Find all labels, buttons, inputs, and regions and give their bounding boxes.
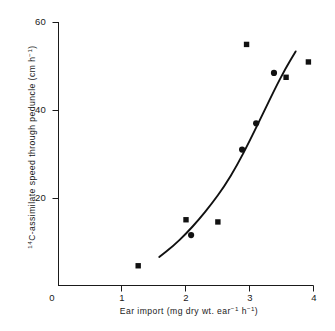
y-axis-title-sup1: −1 [26,49,33,57]
data-point [283,75,288,80]
axes [58,22,314,286]
x-tick-label-4: 4 [304,292,324,303]
chart-figure: 60 40 20 0 1 2 3 4 Ear import (mg dry wt… [0,0,335,331]
data-point [253,120,259,126]
data-point [306,59,311,64]
x-axis-title-end: ) [255,306,258,316]
y-axis-title-sup0: 14 [26,241,33,249]
x-axis-title-main: Ear import (mg dry wt. ear [120,306,231,316]
x-axis-title: Ear import (mg dry wt. ear−1 h−1) [58,306,320,316]
x-axis-title-sup1: −1 [231,305,239,312]
data-point [215,219,220,224]
x-tick-label-0: 0 [42,292,62,303]
data-point [188,232,194,238]
x-tick-label-1: 1 [112,292,132,303]
x-tick-label-2: 2 [176,292,196,303]
data-markers [135,42,311,269]
fit-curve [159,51,295,257]
data-point [271,70,277,76]
data-point [183,217,188,222]
data-point [244,42,249,47]
y-axis-title-end: ) [27,45,37,48]
plot-area [0,0,335,331]
y-axis-title: 14C-assimilate speed through peduncle (c… [27,17,37,277]
x-axis-title-sup2: −1 [247,305,255,312]
data-point [135,263,140,268]
x-tick-label-3: 3 [240,292,260,303]
data-point [239,147,245,153]
x-tick-marks [122,286,314,292]
x-axis-title-mid: h [239,306,247,316]
y-axis-title-main: C-assimilate speed through peduncle (cm … [27,57,37,241]
y-tick-marks [53,23,59,199]
